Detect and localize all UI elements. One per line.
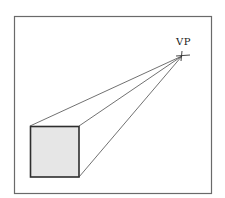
perspective-diagram [0, 0, 225, 198]
vanishing-point-label: VP [176, 37, 191, 47]
front-face-square [31, 127, 80, 178]
